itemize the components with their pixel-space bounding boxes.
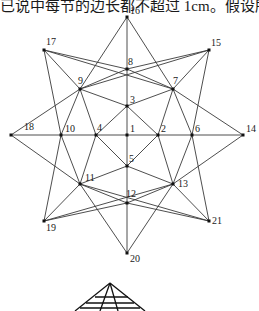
node-label-14: 14 [246, 123, 256, 134]
edge-14-13 [173, 135, 243, 184]
node-8 [126, 68, 129, 71]
edge-21-11 [80, 184, 209, 221]
node-label-16: 16 [130, 5, 140, 16]
node-label-1: 1 [130, 123, 135, 134]
edge-15-8 [127, 50, 209, 69]
edge-11-12 [80, 184, 127, 203]
node-18 [10, 134, 13, 137]
solid-preview-figure [75, 283, 145, 311]
edge-9-3 [80, 89, 127, 106]
node-label-11: 11 [85, 172, 95, 183]
node-label-20: 20 [130, 253, 140, 264]
edge-13-6 [173, 135, 192, 184]
edge-7-6 [173, 89, 192, 135]
node-label-17: 17 [46, 36, 56, 47]
edge-13-2 [158, 135, 173, 184]
edge-18-11 [11, 135, 80, 184]
node-label-13: 13 [178, 178, 188, 189]
edge-5-13 [127, 166, 173, 184]
edge-19-10 [44, 135, 61, 221]
node-label-12: 12 [126, 188, 136, 199]
node-12 [126, 202, 129, 205]
node-label-2: 2 [161, 123, 166, 134]
edge-5-4 [96, 135, 127, 166]
edge-9-4 [80, 89, 96, 135]
node-16 [126, 16, 129, 19]
node-label-6: 6 [195, 123, 200, 134]
node-3 [126, 105, 129, 108]
node-label-15: 15 [211, 37, 221, 48]
node-label-18: 18 [24, 121, 34, 132]
edge-15-9 [80, 50, 209, 89]
edge-19-13 [44, 184, 173, 221]
node-label-8: 8 [128, 56, 133, 67]
edge-16-7 [127, 17, 173, 89]
node-20 [126, 252, 129, 255]
node-2 [157, 134, 160, 137]
node-11 [79, 183, 82, 186]
node-label-10: 10 [65, 123, 75, 134]
node-5 [126, 165, 129, 168]
node-4 [95, 134, 98, 137]
truss-nodes: 123456789101112131415161718192021 [10, 5, 257, 264]
edge-17-8 [44, 50, 127, 69]
node-label-19: 19 [46, 222, 56, 233]
edge-11-10 [61, 135, 80, 184]
node-label-3: 3 [130, 94, 135, 105]
node-label-21: 21 [212, 215, 222, 226]
node-label-9: 9 [78, 75, 83, 86]
node-17 [43, 49, 46, 52]
node-7 [172, 88, 175, 91]
edge-19-12 [44, 203, 127, 221]
edge-21-6 [192, 135, 209, 221]
node-15 [208, 49, 211, 52]
node-13 [172, 183, 175, 186]
node-21 [208, 220, 211, 223]
truss-diagram: 123456789101112131415161718192021 [0, 0, 259, 311]
node-label-5: 5 [129, 153, 134, 164]
node-9 [79, 88, 82, 91]
edge-21-12 [127, 203, 209, 221]
node-label-7: 7 [173, 75, 178, 86]
edge-20-11 [80, 184, 127, 253]
edge-17-7 [44, 50, 173, 89]
node-14 [242, 134, 245, 137]
node-1 [126, 134, 129, 137]
edge-14-7 [173, 89, 243, 135]
edge-16-9 [80, 17, 127, 89]
node-6 [191, 134, 194, 137]
node-label-4: 4 [97, 122, 102, 133]
node-10 [60, 134, 63, 137]
edge-17-10 [44, 50, 61, 135]
